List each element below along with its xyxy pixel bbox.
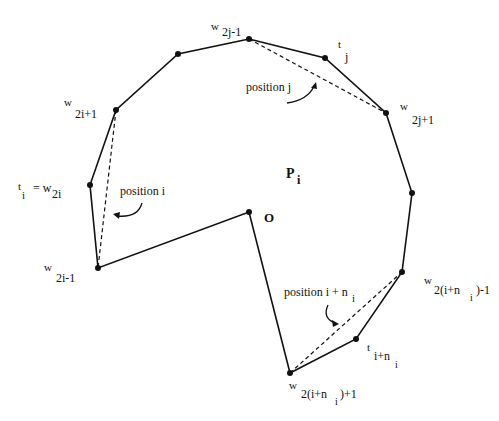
arrow-position-i-icon (117, 203, 142, 216)
label-region-P: P (286, 166, 295, 181)
label-position-i-ni: position i + n (284, 285, 348, 299)
label-origin: O (264, 210, 274, 225)
arrowhead-i-ni-icon (332, 320, 339, 327)
label-t-i-ni-sub: i+n (374, 349, 390, 363)
label-ti-eq-sub: 2i (52, 187, 62, 201)
label-t-i-ni: t (367, 341, 370, 353)
label-w2j+1-sub: 2j+1 (412, 113, 434, 127)
label-w-end-plus-tail: )+1 (340, 387, 357, 401)
label-position-i-ni-sub: i (352, 292, 355, 304)
label-w-end-plus-sub: 2(i+n (301, 387, 327, 401)
label-w-end-minus-subsub: i (470, 292, 473, 303)
arrow-position-j-icon (287, 86, 314, 103)
label-ti-sub: i (22, 189, 25, 201)
label-ti: t (18, 180, 21, 192)
label-t-i-ni-subsub: i (395, 359, 398, 370)
arrowhead-i-icon (113, 212, 120, 219)
chord-position-j (249, 39, 386, 113)
label-tj: t (338, 38, 341, 50)
label-w2i+1-sub: 2i+1 (75, 107, 97, 121)
arrowhead-j-icon (311, 82, 317, 89)
label-w-end-plus-subsub: i (335, 396, 338, 407)
label-w2j-1: w (211, 20, 219, 32)
label-position-j: position j (246, 80, 291, 94)
label-w2j-1-sub: 2j-1 (222, 25, 241, 39)
label-region-P-sub: i (297, 173, 301, 187)
label-w2i-1-sub: 2i-1 (56, 271, 75, 285)
polygon-diagram: w 2j-1 t j w 2j+1 w 2i+1 t i = w 2i w 2i… (0, 0, 499, 421)
label-w2i+1: w (64, 96, 72, 108)
label-tj-sub: j (344, 50, 348, 64)
label-w-end-minus-tail: )-1 (476, 283, 490, 297)
diagram-svg: w 2j-1 t j w 2j+1 w 2i+1 t i = w 2i w 2i… (0, 0, 499, 421)
label-w-end-minus-sub: 2(i+n (434, 283, 460, 297)
label-w-end-plus: w (289, 379, 297, 391)
label-ti-eq: = w (33, 181, 52, 195)
label-w2i-1: w (44, 261, 52, 273)
label-w-end-minus: w (424, 274, 432, 286)
label-position-i: position i (120, 184, 166, 198)
label-w2j+1: w (400, 100, 408, 112)
arrow-position-i-ni-icon (326, 305, 335, 323)
